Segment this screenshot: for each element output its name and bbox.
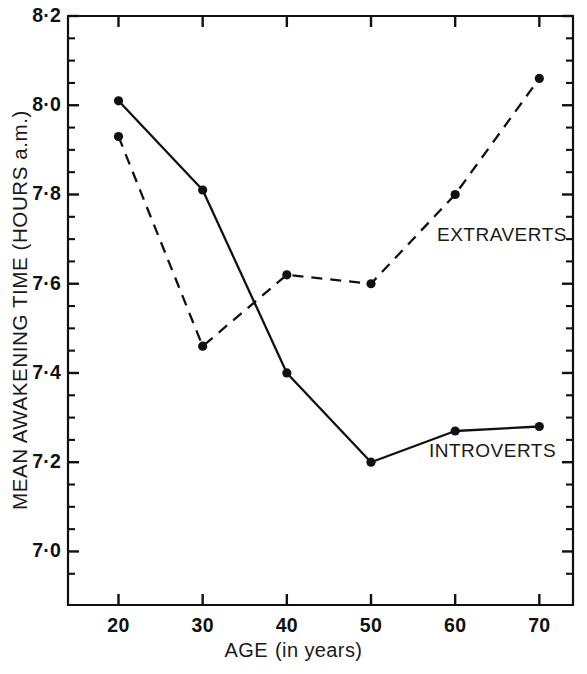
data-point xyxy=(451,426,460,435)
x-tick-label: 70 xyxy=(516,614,562,637)
series-label-introverts: INTROVERTS xyxy=(429,440,556,462)
x-tick-label: 30 xyxy=(180,614,226,637)
data-point xyxy=(198,342,207,351)
y-tick-label: 7·4 xyxy=(15,361,61,384)
x-axis-title-paren: (in years) xyxy=(275,639,362,661)
data-point xyxy=(198,185,207,194)
series-line-introverts xyxy=(119,101,540,462)
data-point xyxy=(535,422,544,431)
series-label-extraverts: EXTRAVERTS xyxy=(437,224,567,246)
data-point xyxy=(366,458,375,467)
series-line-extraverts xyxy=(119,78,540,346)
data-point xyxy=(114,96,123,105)
x-tick-label: 20 xyxy=(96,614,142,637)
x-tick-label: 40 xyxy=(264,614,310,637)
x-axis-title-main: AGE xyxy=(225,639,268,661)
x-tick-label: 60 xyxy=(432,614,478,637)
y-tick-label: 7·2 xyxy=(15,450,61,473)
data-point xyxy=(282,368,291,377)
x-tick-label: 50 xyxy=(348,614,394,637)
data-point xyxy=(366,279,375,288)
data-point xyxy=(535,74,544,83)
chart-figure: MEAN AWAKENING TIME (HOURS a.m.) AGE(in … xyxy=(0,0,587,674)
data-series-layer xyxy=(114,74,544,467)
line-chart-canvas xyxy=(0,0,587,674)
data-point xyxy=(451,190,460,199)
data-point xyxy=(114,132,123,141)
x-axis-title: AGE(in years) xyxy=(0,639,587,662)
axis-frame xyxy=(68,16,573,605)
y-tick-label: 7·6 xyxy=(15,272,61,295)
y-tick-label: 8·2 xyxy=(15,4,61,27)
data-point xyxy=(282,270,291,279)
y-tick-label: 7·8 xyxy=(15,182,61,205)
axis-ticks xyxy=(68,16,573,605)
y-tick-label: 7·0 xyxy=(15,539,61,562)
y-tick-label: 8·0 xyxy=(15,93,61,116)
